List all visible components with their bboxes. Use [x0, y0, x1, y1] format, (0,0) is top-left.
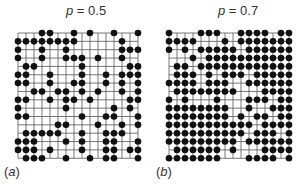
occupied-site — [190, 147, 197, 154]
occupied-site — [39, 55, 46, 62]
occupied-site — [262, 30, 269, 37]
occupied-site — [286, 38, 293, 45]
occupied-site — [166, 155, 173, 162]
occupied-site — [119, 38, 126, 45]
occupied-site — [103, 147, 110, 154]
occupied-site — [119, 122, 126, 129]
occupied-site — [230, 63, 237, 70]
occupied-site — [135, 113, 142, 120]
occupied-site — [39, 38, 46, 45]
occupied-site — [166, 138, 173, 145]
occupied-site — [270, 155, 277, 162]
occupied-site — [47, 97, 54, 104]
occupied-site — [270, 38, 277, 45]
occupied-site — [278, 38, 285, 45]
occupied-site — [47, 80, 54, 87]
occupied-site — [135, 80, 142, 87]
occupied-site — [246, 138, 253, 145]
occupied-site — [246, 97, 253, 104]
occupied-site — [182, 122, 189, 129]
occupied-site — [262, 46, 269, 53]
occupied-site — [206, 122, 213, 129]
occupied-site — [182, 155, 189, 162]
occupied-site — [286, 97, 293, 104]
occupied-site — [278, 105, 285, 112]
occupied-site — [230, 88, 237, 95]
occupied-site — [15, 147, 22, 154]
occupied-site — [79, 113, 86, 120]
occupied-site — [214, 80, 221, 87]
occupied-site — [174, 155, 181, 162]
occupied-site — [71, 38, 78, 45]
occupied-site — [15, 105, 22, 112]
occupied-site — [262, 122, 269, 129]
occupied-site — [222, 113, 229, 120]
occupied-site — [79, 147, 86, 154]
occupied-site — [47, 38, 54, 45]
occupied-site — [174, 147, 181, 154]
occupied-site — [254, 71, 261, 78]
occupied-site — [262, 138, 269, 145]
occupied-site — [71, 97, 78, 104]
occupied-site — [246, 122, 253, 129]
occupied-site — [182, 88, 189, 95]
occupied-site — [79, 138, 86, 145]
occupied-site — [262, 113, 269, 120]
occupied-site — [71, 55, 78, 62]
occupied-site — [230, 71, 237, 78]
occupied-site — [135, 63, 142, 70]
occupied-site — [238, 63, 245, 70]
occupied-site — [254, 113, 261, 120]
occupied-site — [63, 97, 70, 104]
occupied-site — [135, 88, 142, 95]
occupied-site — [111, 105, 118, 112]
occupied-site — [198, 113, 205, 120]
occupied-site — [135, 30, 142, 37]
occupied-site — [174, 63, 181, 70]
occupied-site — [190, 38, 197, 45]
occupied-site — [262, 155, 269, 162]
occupied-site — [198, 46, 205, 53]
occupied-site — [286, 105, 293, 112]
occupied-site — [119, 55, 126, 62]
occupied-site — [23, 38, 30, 45]
occupied-site — [174, 130, 181, 137]
occupied-site — [270, 122, 277, 129]
occupied-site — [47, 30, 54, 37]
occupied-site — [15, 97, 22, 104]
occupied-site — [103, 71, 110, 78]
lattice-a — [15, 30, 142, 162]
occupied-site — [214, 155, 221, 162]
occupied-site — [270, 46, 277, 53]
occupied-site — [270, 55, 277, 62]
occupied-site — [230, 55, 237, 62]
occupied-site — [190, 88, 197, 95]
occupied-site — [174, 138, 181, 145]
occupied-site — [198, 88, 205, 95]
occupied-site — [278, 113, 285, 120]
occupied-site — [254, 97, 261, 104]
occupied-site — [278, 97, 285, 104]
occupied-site — [230, 138, 237, 145]
occupied-site — [63, 38, 70, 45]
occupied-site — [222, 138, 229, 145]
occupied-site — [166, 46, 173, 53]
occupied-site — [190, 55, 197, 62]
occupied-site — [286, 63, 293, 70]
occupied-site — [127, 105, 134, 112]
occupied-site — [190, 71, 197, 78]
occupied-site — [286, 122, 293, 129]
occupied-site — [238, 71, 245, 78]
occupied-site — [214, 88, 221, 95]
occupied-site — [174, 38, 181, 45]
occupied-site — [246, 155, 253, 162]
occupied-site — [55, 38, 62, 45]
occupied-site — [39, 46, 46, 53]
occupied-site — [262, 80, 269, 87]
occupied-site — [214, 63, 221, 70]
occupied-site — [206, 105, 213, 112]
occupied-site — [190, 113, 197, 120]
occupied-site — [214, 105, 221, 112]
occupied-site — [278, 80, 285, 87]
occupied-site — [262, 63, 269, 70]
